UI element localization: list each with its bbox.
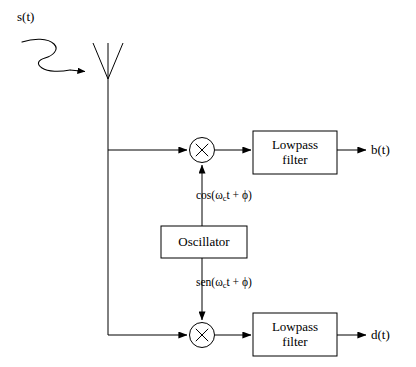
- carrier-quadrature-suffix: t + ϕ): [227, 276, 252, 288]
- mixer-q: [190, 323, 215, 348]
- mixer-i: [190, 138, 215, 163]
- lowpass-filter-q-line1: Lowpass: [272, 320, 318, 335]
- lowpass-filter-q-label: Lowpass filter: [253, 313, 337, 356]
- lowpass-filter-i-line1: Lowpass: [272, 138, 318, 153]
- lowpass-filter-q-line2: filter: [282, 335, 307, 350]
- output-b-label: b(t): [371, 143, 390, 156]
- carrier-label-in-phase: cos(ωct + ϕ): [196, 190, 252, 202]
- lowpass-filter-i-line2: filter: [282, 153, 307, 168]
- carrier-quadrature-prefix: sen(ω: [196, 276, 223, 288]
- input-signal-label: s(t): [17, 10, 34, 23]
- incoming-wave-arrow: [22, 39, 85, 71]
- block-diagram-canvas: s(t) Oscillator cos(ωct + ϕ) sen(ωct + ϕ…: [0, 0, 416, 367]
- output-d-label: d(t): [371, 328, 390, 341]
- carrier-in-phase-suffix: t + ϕ): [227, 189, 252, 201]
- carrier-in-phase-prefix: cos(ω: [196, 189, 223, 201]
- oscillator-label: Oscillator: [161, 226, 247, 258]
- receiving-antenna: [93, 43, 123, 335]
- diagram-vector-layer: [0, 0, 416, 367]
- carrier-label-quadrature: sen(ωct + ϕ): [196, 277, 252, 289]
- lowpass-filter-i-label: Lowpass filter: [253, 131, 337, 174]
